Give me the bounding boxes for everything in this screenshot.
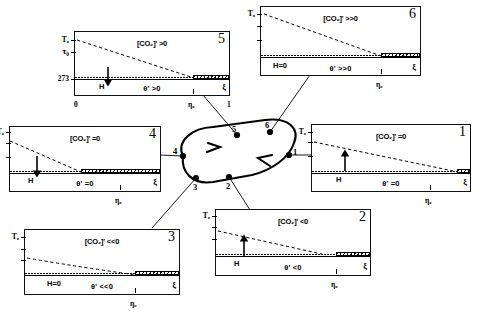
dashed-profile-6 — [264, 14, 384, 57]
ytick-low-6 — [257, 40, 263, 41]
node-1[interactable] — [286, 152, 292, 158]
xtick-eta-5 — [193, 89, 194, 94]
xlabel-eta0-2: η₀ — [331, 280, 338, 289]
xlabel-eta0-5: η₀ — [188, 100, 195, 109]
ice-slab-5 — [193, 75, 229, 80]
ice-slab-2 — [336, 252, 370, 257]
dashed-profile-1 — [314, 142, 458, 172]
arrow-upper — [207, 143, 220, 152]
node-label-6: 6 — [265, 120, 269, 130]
ytick-mid-1 — [308, 142, 314, 143]
xlabel-eta0-3: η₀ — [130, 299, 137, 308]
ytick-mid-4 — [6, 143, 12, 144]
connector-2 — [229, 177, 250, 210]
ylabel-T0-2: T₀ — [194, 211, 210, 220]
xtick-eta-1 — [430, 185, 431, 190]
theta-label-2: θ' <0 — [216, 263, 370, 272]
baseline-5 — [75, 79, 229, 80]
ytick-T0-5 — [71, 40, 77, 41]
panel-6[interactable]: 6 [CO₂]' >>0 H=0 θ' >>0 ξ T₀ η₀ — [260, 6, 421, 76]
xi-label-4: ξ — [153, 177, 157, 187]
baseline-3 — [25, 275, 179, 276]
xi-label-3: ξ — [172, 280, 176, 290]
ylabel-tau0-5: τ₀ — [53, 46, 69, 56]
ylabel-T0-4: T₀ — [0, 127, 4, 136]
xi-label-2: ξ — [363, 261, 367, 271]
xtick-eta-4 — [120, 185, 121, 190]
ice-slab-3 — [135, 271, 179, 276]
baseline-6 — [261, 57, 420, 58]
xtick-eta-2 — [336, 269, 337, 274]
xlabel-1-5: 1 — [227, 100, 231, 109]
xlabel-eta0-1: η₀ — [425, 196, 432, 205]
node-label-3: 3 — [193, 182, 197, 192]
cycle-loop-path — [181, 120, 295, 183]
xlabel-eta0-4: η₀ — [115, 196, 122, 205]
ytick-mid-3 — [21, 249, 27, 250]
theta-label-3: θ' <<0 — [25, 282, 179, 291]
node-label-2: 2 — [226, 181, 230, 191]
baseline-2 — [216, 256, 370, 257]
xi-label-6: ξ — [412, 62, 416, 72]
ytick-T0-4 — [6, 132, 12, 133]
ytick-T0-6 — [257, 14, 263, 15]
theta-label-6: θ' >>0 — [261, 64, 420, 73]
ytick-low-1 — [308, 156, 314, 157]
xlabel-0-5: 0 — [74, 100, 78, 109]
dashed-profile-2 — [218, 231, 326, 255]
ylabel-T0-1: T₀ — [290, 127, 306, 136]
panel-4[interactable]: 4 [CO₂]' =0 H θ' =0 ξ T₀ η₀ — [9, 126, 161, 192]
ytick-T0-2 — [212, 216, 218, 217]
xlabel-eta0-6: η₀ — [376, 80, 383, 89]
baseline-1 — [312, 173, 470, 174]
ytick-mid-6 — [257, 26, 263, 27]
xi-label-5: ξ — [222, 82, 226, 92]
node-label-1: 1 — [293, 147, 297, 157]
ylabel-273-5: 273 — [48, 74, 69, 83]
dashed-profile-4 — [10, 141, 81, 172]
theta-label-4: θ' =0 — [10, 179, 160, 188]
ytick-low-4 — [6, 157, 12, 158]
ice-slab-6 — [381, 53, 420, 58]
arrow-lower — [258, 155, 272, 166]
panel-1[interactable]: 1 [CO₂]' =0 H θ' =0 ξ T₀ η₀ — [311, 124, 471, 192]
node-3[interactable] — [193, 175, 199, 181]
ytick-low-2 — [212, 239, 218, 240]
ytick-tau0-5 — [71, 52, 77, 53]
ytick-T0-1 — [308, 132, 314, 133]
node-4[interactable] — [180, 153, 186, 159]
connector-6 — [270, 75, 310, 132]
xtick-eta-3 — [135, 288, 136, 293]
theta-label-5: θ' >0 — [75, 84, 229, 93]
ytick-low-3 — [21, 260, 27, 261]
ylabel-T0-3: T₀ — [3, 232, 19, 241]
ytick-mid-2 — [212, 227, 218, 228]
figure-canvas: 1 2 3 4 5 6 5 [CO₂]' >0 H θ' >0 ξ T₀ τ₀ … — [0, 0, 481, 313]
ice-slab-4 — [81, 169, 160, 174]
panel-3[interactable]: 3 [CO₂]' <<0 H=0 θ' <<0 ξ T₀ η₀ — [24, 229, 180, 295]
wavy-surface-1 — [312, 170, 470, 173]
ice-slab-1 — [457, 169, 470, 174]
xtick-eta-6 — [381, 69, 382, 74]
ylabel-T0-5: T₀ — [53, 35, 69, 44]
connector-4 — [160, 155, 183, 156]
xi-label-1: ξ — [463, 177, 467, 187]
dashed-profile-5 — [77, 40, 197, 79]
baseline-4 — [10, 173, 160, 174]
panel-5[interactable]: 5 [CO₂]' >0 H θ' >0 ξ T₀ τ₀ 273 0 η₀ 1 — [74, 31, 230, 96]
h-arrowhead-1 — [342, 151, 348, 156]
theta-label-1: θ' =0 — [312, 179, 470, 188]
ytick-273-5 — [71, 79, 77, 80]
node-2[interactable] — [226, 174, 232, 180]
node-label-5: 5 — [232, 124, 236, 134]
node-label-4: 4 — [173, 146, 177, 156]
panel-2[interactable]: 2 [CO₂]' <0 H θ' <0 ξ T₀ η₀ — [215, 209, 371, 276]
ylabel-T0-6: T₀ — [239, 9, 255, 18]
ytick-T0-3 — [21, 237, 27, 238]
